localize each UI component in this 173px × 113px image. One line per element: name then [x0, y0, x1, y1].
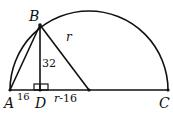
label-d: D	[34, 95, 46, 111]
label-radius: r	[66, 30, 73, 44]
segment-ab	[10, 25, 40, 90]
point-d	[38, 88, 41, 91]
label-do-r-minus-16: r-16	[54, 92, 77, 105]
label-height-32: 32	[42, 57, 56, 70]
geometry-diagram: B r 32 A 16 D r-16 C	[0, 0, 173, 113]
point-o-center	[87, 88, 90, 91]
label-c: C	[159, 95, 170, 111]
label-a: A	[2, 95, 14, 111]
point-c	[166, 88, 169, 91]
label-b: B	[28, 8, 39, 24]
label-ad-16: 16	[17, 91, 30, 102]
point-a	[8, 88, 11, 91]
